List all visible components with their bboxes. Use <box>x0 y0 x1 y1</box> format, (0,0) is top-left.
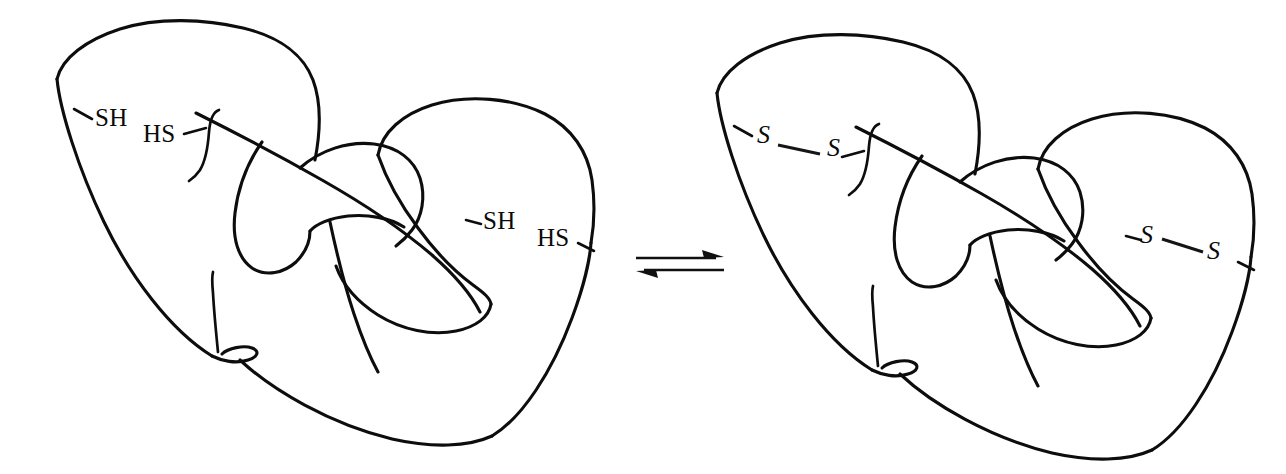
left-central-diagonal-strand <box>196 113 480 312</box>
left-lobe-left-flank <box>57 79 212 356</box>
disulfide-bond-lower <box>1162 239 1203 252</box>
left-central-right-arch <box>300 143 423 246</box>
sh-lower-left-tick <box>466 220 481 224</box>
equilibrium-arrow <box>636 250 724 278</box>
left-chain-terminus-stub <box>212 272 218 352</box>
hs-upper-right-tick <box>184 128 206 134</box>
left-bottom-sweep <box>240 360 492 445</box>
right-central-right-arch <box>960 157 1083 260</box>
right-chain-terminus-stub <box>872 286 878 366</box>
right-lobe-left-flank <box>717 93 872 370</box>
s-lower-left-tick <box>1126 236 1141 240</box>
left-right-lobe-inner-fold <box>378 155 491 304</box>
chemistry-reaction-figure: SH HS SH HS <box>0 0 1286 474</box>
right-right-lobe-inner-fold <box>1038 169 1151 318</box>
right-right-lobe-bottom <box>996 280 1151 347</box>
left-lobe-outer-contour <box>57 21 319 160</box>
left-protein-structure: SH HS SH HS <box>57 21 594 445</box>
right-central-diagonal-strand <box>856 127 1140 326</box>
reaction-scheme-canvas: SH HS SH HS <box>0 0 1286 474</box>
right-bottom-sweep <box>900 374 1152 459</box>
label-hs-lower-right: HS <box>537 224 570 251</box>
disulfide-bond-upper <box>778 145 820 154</box>
left-outer-right-flank <box>492 243 591 436</box>
right-lobe-outer-contour <box>717 35 979 174</box>
label-s-lower-left: S <box>1140 220 1153 249</box>
s-upper-left-tick <box>734 126 752 136</box>
right-outer-right-flank <box>1152 257 1251 450</box>
label-sh-lower-left: SH <box>483 207 516 234</box>
s-upper-right-tick <box>842 151 864 157</box>
left-central-inner-loop <box>234 142 310 273</box>
sh-upper-left-tick <box>74 109 92 119</box>
label-s-upper-left: S <box>757 120 770 149</box>
label-s-upper-right: S <box>827 133 840 162</box>
label-hs-upper-right: HS <box>143 120 176 147</box>
right-protein-structure: S S S S <box>717 35 1254 459</box>
equilibrium-arrow-left-head <box>636 270 658 278</box>
left-right-lobe-bottom <box>336 266 491 333</box>
right-central-inner-loop <box>894 156 970 287</box>
label-sh-upper-left: SH <box>95 104 128 131</box>
equilibrium-arrow-right-head <box>702 250 724 258</box>
label-s-lower-right: S <box>1207 236 1220 265</box>
